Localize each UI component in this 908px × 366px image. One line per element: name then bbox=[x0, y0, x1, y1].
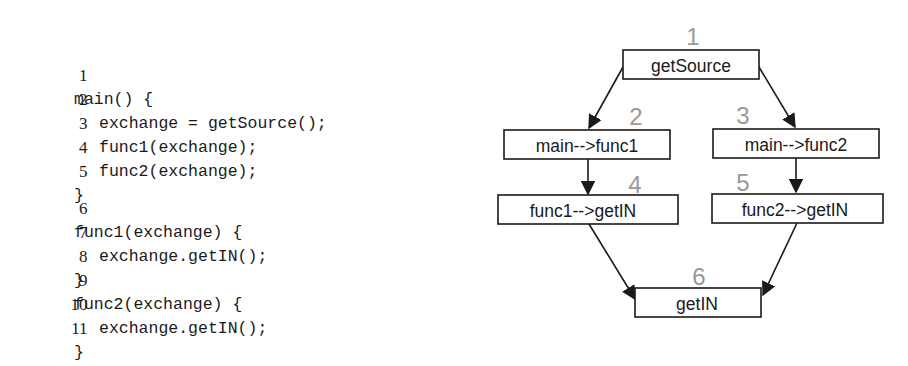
line-number: 1 bbox=[40, 64, 88, 88]
node-main-func1: 2 main-->func1 bbox=[504, 103, 670, 159]
call-graph-diagram: 1 getSource 2 main-->func1 3 main-->func… bbox=[480, 0, 908, 366]
node-label: main-->func1 bbox=[536, 136, 639, 156]
code-line-11: 11 } bbox=[0, 293, 40, 317]
code-line-9: 9 func2(exchange) { bbox=[0, 245, 40, 269]
line-text: exchange.getIN(); bbox=[99, 245, 267, 269]
edge-1-to-3 bbox=[759, 67, 795, 127]
code-listing: 1 main() { 2 exchange = getSource(); 3 f… bbox=[0, 0, 460, 366]
node-number: 3 bbox=[736, 102, 749, 129]
code-line-4: 4 func2(exchange); bbox=[0, 112, 40, 136]
line-text: func1(exchange) { bbox=[74, 221, 242, 245]
line-number: 10 bbox=[40, 293, 88, 317]
edge-4-to-6 bbox=[589, 224, 635, 299]
line-number: 4 bbox=[40, 136, 88, 160]
line-number: 6 bbox=[40, 197, 88, 221]
edge-1-to-2 bbox=[589, 67, 623, 128]
node-getsource: 1 getSource bbox=[623, 23, 759, 79]
node-number: 1 bbox=[686, 23, 699, 50]
code-line-1: 1 main() { bbox=[0, 40, 40, 64]
line-text: exchange.getIN(); bbox=[99, 317, 267, 341]
node-label: getSource bbox=[651, 56, 731, 76]
node-number: 6 bbox=[692, 263, 705, 290]
code-line-8: 8 } bbox=[0, 221, 40, 245]
code-line-7: 7 exchange.getIN(); bbox=[0, 197, 40, 221]
line-number: 8 bbox=[40, 245, 88, 269]
line-number: 3 bbox=[40, 112, 88, 136]
code-line-10: 10 exchange.getIN(); bbox=[0, 269, 40, 293]
node-label: main-->func2 bbox=[745, 135, 848, 155]
line-number: 9 bbox=[40, 269, 88, 293]
code-line-5: 5 } bbox=[0, 136, 40, 160]
line-text: exchange = getSource(); bbox=[99, 112, 327, 136]
node-getin: 6 getIN bbox=[635, 263, 761, 317]
line-text: } bbox=[74, 341, 84, 365]
node-label: func2-->getIN bbox=[742, 200, 849, 220]
node-number: 2 bbox=[629, 103, 642, 130]
line-number: 5 bbox=[40, 160, 88, 184]
node-label: getIN bbox=[676, 294, 718, 314]
line-number: 2 bbox=[40, 88, 88, 112]
line-text: func2(exchange) { bbox=[74, 293, 242, 317]
code-line-6: 6 func1(exchange) { bbox=[0, 173, 40, 197]
line-text: func1(exchange); bbox=[99, 136, 257, 160]
node-func2-getin: 5 func2-->getIN bbox=[712, 169, 883, 223]
node-number: 4 bbox=[628, 171, 641, 198]
line-number: 7 bbox=[40, 221, 88, 245]
node-main-func2: 3 main-->func2 bbox=[713, 102, 879, 158]
code-line-2: 2 exchange = getSource(); bbox=[0, 64, 40, 88]
edge-5-to-6 bbox=[763, 223, 797, 295]
node-number: 5 bbox=[736, 169, 749, 196]
code-line-3: 3 func1(exchange); bbox=[0, 88, 40, 112]
node-label: func1-->getIN bbox=[530, 201, 637, 221]
line-number: 11 bbox=[40, 317, 88, 341]
line-text: func2(exchange); bbox=[99, 160, 257, 184]
